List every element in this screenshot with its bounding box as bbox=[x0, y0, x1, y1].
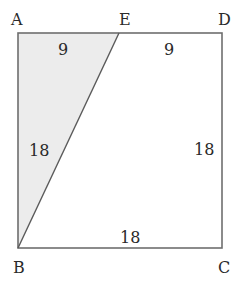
measure-ab: 18 bbox=[29, 141, 49, 160]
vertex-label-d: D bbox=[218, 10, 231, 29]
square-diagram: A E D B C 9 9 18 18 18 bbox=[0, 0, 241, 286]
measure-ed: 9 bbox=[164, 40, 174, 59]
vertex-label-e: E bbox=[119, 10, 131, 29]
vertex-label-b: B bbox=[13, 258, 25, 277]
measure-bc: 18 bbox=[120, 228, 140, 247]
measure-ae: 9 bbox=[58, 40, 68, 59]
vertex-label-a: A bbox=[10, 10, 23, 29]
measure-dc: 18 bbox=[194, 140, 214, 159]
vertex-label-c: C bbox=[218, 258, 230, 277]
